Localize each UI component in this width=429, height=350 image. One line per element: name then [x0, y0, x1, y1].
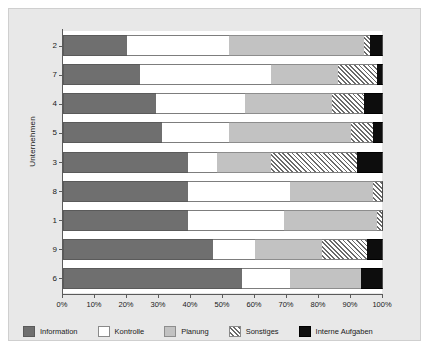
y-axis-title: Unternehmen	[28, 97, 37, 187]
bar-segment-info	[63, 93, 156, 114]
chart-panel: Unternehmen 274538196 0%10%20%30%40%50%6…	[8, 8, 421, 341]
x-axis-tick	[254, 294, 255, 298]
x-axis-tick	[158, 294, 159, 298]
bar-segment-kont	[242, 268, 290, 289]
bar-segment-plan	[229, 35, 363, 56]
bar-segment-sonst	[322, 239, 367, 260]
bar-segment-info	[63, 239, 213, 260]
x-axis-tick	[382, 294, 383, 298]
bar-segment-kont	[140, 64, 271, 85]
bar-segment-sonst	[351, 122, 373, 143]
bar-segment-kont	[213, 239, 255, 260]
bar-row: 8	[63, 181, 383, 202]
bar-segment-intern	[361, 268, 383, 289]
x-axis-ticks: 0%10%20%30%40%50%60%70%80%90%100%	[62, 294, 383, 314]
bar-segment-sonst	[338, 64, 376, 85]
bar-segment-kont	[188, 210, 284, 231]
stacked-bar	[63, 64, 383, 85]
bar-segment-info	[63, 64, 140, 85]
stacked-bar	[63, 35, 383, 56]
y-axis-tick-label: 2	[41, 35, 57, 56]
bar-segment-plan	[217, 152, 271, 173]
y-axis-tick-label: 9	[41, 239, 57, 260]
bar-segment-sonst	[373, 181, 383, 202]
stacked-bar	[63, 152, 383, 173]
legend-item-kont: Kontrolle	[98, 326, 145, 337]
legend-swatch-sonst-icon	[229, 326, 241, 337]
legend-label: Kontrolle	[115, 327, 145, 336]
bar-segment-plan	[290, 181, 373, 202]
x-axis-tick-label: 40%	[182, 300, 197, 309]
x-axis-tick-label: 60%	[246, 300, 261, 309]
bar-row: 9	[63, 239, 383, 260]
x-axis-tick-label: 50%	[214, 300, 229, 309]
x-axis-tick	[222, 294, 223, 298]
bar-segment-plan	[229, 122, 351, 143]
x-axis-tick-label: 100%	[372, 300, 391, 309]
stacked-bar	[63, 181, 383, 202]
x-axis-tick	[190, 294, 191, 298]
stacked-bar	[63, 239, 383, 260]
x-axis-tick	[350, 294, 351, 298]
bar-segment-sonst	[271, 152, 357, 173]
legend-item-info: Information	[23, 326, 78, 337]
legend-label: Planung	[181, 327, 209, 336]
bar-segment-info	[63, 122, 162, 143]
stacked-bar	[63, 210, 383, 231]
bar-segment-kont	[162, 122, 229, 143]
x-axis-tick-label: 0%	[57, 300, 68, 309]
y-axis-tick-label: 8	[41, 181, 57, 202]
y-axis-tick-label: 5	[41, 122, 57, 143]
x-axis-tick-label: 90%	[342, 300, 357, 309]
bar-segment-intern	[370, 35, 383, 56]
bar-row: 7	[63, 64, 383, 85]
bar-segment-intern	[364, 93, 383, 114]
bar-segment-intern	[367, 239, 383, 260]
bar-segment-plan	[271, 64, 338, 85]
bar-segment-plan	[245, 93, 331, 114]
bar-row: 3	[63, 152, 383, 173]
y-axis-tick-label: 7	[41, 64, 57, 85]
bar-row: 1	[63, 210, 383, 231]
bar-segment-kont	[188, 152, 217, 173]
legend-swatch-kont-icon	[98, 326, 110, 337]
bar-segment-info	[63, 181, 188, 202]
bar-segment-info	[63, 268, 242, 289]
legend-item-plan: Planung	[164, 326, 209, 337]
bar-rows: 274538196	[63, 31, 383, 293]
bar-segment-plan	[284, 210, 377, 231]
y-axis-tick-label: 3	[41, 152, 57, 173]
bar-segment-plan	[290, 268, 360, 289]
legend-swatch-intern-icon	[299, 326, 311, 337]
x-axis-tick-label: 80%	[310, 300, 325, 309]
legend-swatch-plan-icon	[164, 326, 176, 337]
bar-segment-kont	[188, 181, 290, 202]
legend-item-sonst: Sonstiges	[229, 326, 279, 337]
x-axis-tick-label: 30%	[150, 300, 165, 309]
stacked-bar	[63, 268, 383, 289]
chart-legend: InformationKontrollePlanungSonstigesInte…	[23, 321, 423, 341]
bar-segment-intern	[377, 64, 383, 85]
bar-segment-kont	[127, 35, 229, 56]
bar-segment-sonst	[377, 210, 383, 231]
x-axis-tick-label: 10%	[86, 300, 101, 309]
bar-segment-intern	[357, 152, 383, 173]
x-axis-tick	[126, 294, 127, 298]
x-axis-tick	[62, 294, 63, 298]
chart-root: Unternehmen 274538196 0%10%20%30%40%50%6…	[0, 0, 429, 350]
stacked-bar	[63, 93, 383, 114]
y-axis-tick-label: 4	[41, 93, 57, 114]
bar-segment-plan	[255, 239, 322, 260]
bar-segment-kont	[156, 93, 246, 114]
legend-label: Interne Aufgaben	[316, 327, 373, 336]
bar-segment-info	[63, 210, 188, 231]
x-axis-tick-label: 20%	[118, 300, 133, 309]
stacked-bar	[63, 122, 383, 143]
x-axis-tick-label: 70%	[278, 300, 293, 309]
x-axis-tick	[286, 294, 287, 298]
bar-segment-info	[63, 152, 188, 173]
y-axis-tick-label: 1	[41, 210, 57, 231]
legend-item-intern: Interne Aufgaben	[299, 326, 373, 337]
y-axis-tick-label: 6	[41, 268, 57, 289]
legend-label: Information	[40, 327, 78, 336]
